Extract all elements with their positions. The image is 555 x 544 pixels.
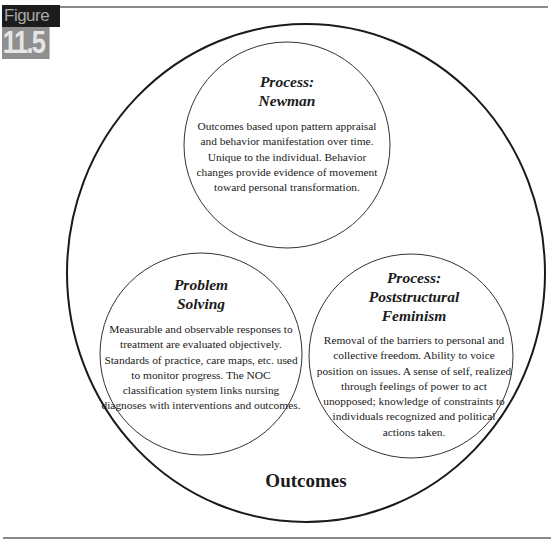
node-problem-solving: Problem Solving Measurable and observabl… bbox=[100, 275, 302, 414]
node-poststructural-feminism: Process: Poststructural Feminism Removal… bbox=[316, 268, 512, 440]
node-body: Removal of the barriers to personal and … bbox=[316, 333, 512, 440]
node-title: Problem Solving bbox=[100, 275, 302, 313]
node-title: Process: Newman bbox=[190, 72, 384, 110]
node-newman: Process: Newman Outcomes based upon patt… bbox=[190, 72, 384, 195]
outcomes-label: Outcomes bbox=[206, 470, 406, 492]
node-title: Process: Poststructural Feminism bbox=[316, 268, 512, 325]
node-body: Outcomes based upon pattern appraisal an… bbox=[190, 119, 384, 195]
node-body: Measurable and observable responses to t… bbox=[100, 322, 302, 414]
